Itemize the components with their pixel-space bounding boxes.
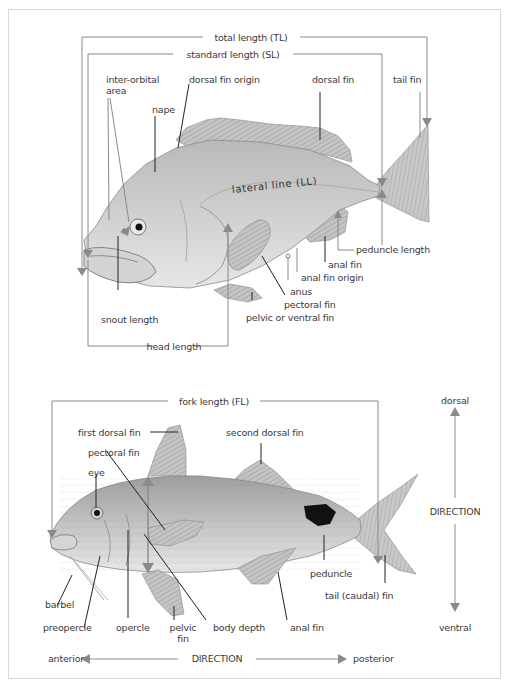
vertical-direction-label: DIRECTION — [430, 506, 481, 517]
nape-label: nape — [152, 104, 175, 115]
anal-fin-label: anal fin — [328, 259, 362, 270]
dorsal-fin-origin-label: dorsal fin origin — [189, 74, 260, 85]
inter-orbital-label-2: area — [106, 85, 126, 96]
eye-label: eye — [88, 467, 105, 478]
pectoral-fin-label-bottom: pectoral fin — [88, 447, 140, 458]
ventral-direction-label: ventral — [439, 622, 471, 633]
pectoral-fin-label: pectoral fin — [284, 299, 336, 310]
diagram-graphics — [0, 0, 510, 689]
standard-length-label: standard length (SL) — [186, 49, 279, 60]
anal-fin-label-bottom: anal fin — [290, 622, 324, 633]
total-length-label: total length (TL) — [214, 32, 287, 43]
preopercle-label: preopercle — [43, 622, 92, 633]
snout-length-label: snout length — [101, 314, 158, 325]
body-depth-label: body depth — [213, 622, 265, 633]
opercle-label: opercle — [116, 622, 150, 633]
anal-fin-origin-label: anal fin origin — [301, 272, 363, 283]
second-dorsal-fin-label: second dorsal fin — [226, 427, 304, 438]
head-length-label: head length — [147, 341, 202, 352]
pelvic-fin-label: pelvic or ventral fin — [246, 312, 334, 323]
peduncle-label: peduncle — [310, 568, 352, 579]
peduncle-length-label: peduncle length — [356, 244, 430, 255]
dorsal-direction-label: dorsal — [441, 395, 469, 406]
first-dorsal-fin-label: first dorsal fin — [78, 427, 141, 438]
inter-orbital-label: inter-orbital — [106, 74, 159, 85]
horizontal-direction-label: DIRECTION — [192, 653, 243, 664]
tail-caudal-fin-label: tail (caudal) fin — [325, 590, 393, 601]
tail-fin-label: tail fin — [393, 74, 421, 85]
pelvic-fin-label-bottom-2: fin — [177, 633, 188, 644]
fork-length-label: fork length (FL) — [179, 396, 249, 407]
pelvic-fin-label-bottom: pelvic — [170, 622, 197, 633]
anus-label: anus — [290, 286, 312, 297]
top-fish-illustration — [84, 118, 429, 302]
barbel-label: barbel — [45, 599, 74, 610]
posterior-direction-label: posterior — [353, 653, 394, 664]
dorsal-fin-label: dorsal fin — [312, 74, 354, 85]
anterior-direction-label: anterior — [48, 653, 84, 664]
